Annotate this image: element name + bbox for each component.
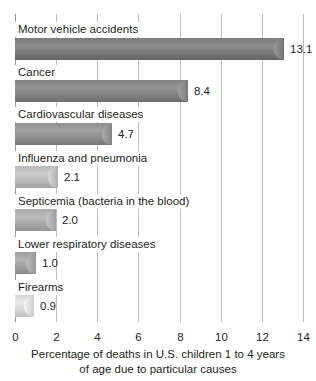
gridline <box>138 14 139 322</box>
value-label: 2.0 <box>62 209 78 231</box>
category-label: Firearms <box>15 280 65 295</box>
bar <box>15 252 36 274</box>
x-tick-label: 2 <box>45 331 69 343</box>
bar-end-cap <box>24 295 34 317</box>
value-label: 8.4 <box>194 80 210 102</box>
value-label: 13.1 <box>290 38 312 60</box>
value-label: 4.7 <box>118 123 134 145</box>
bar <box>15 295 34 317</box>
value-label: 0.9 <box>40 295 56 317</box>
bar <box>15 123 112 145</box>
gridline <box>303 14 304 322</box>
category-label: Lower respiratory diseases <box>15 237 157 252</box>
bar-end-cap <box>178 80 188 102</box>
bar <box>15 38 284 60</box>
x-tick-label: 10 <box>210 331 234 343</box>
gridline <box>262 14 263 322</box>
x-tick-label: 8 <box>169 331 193 343</box>
horizontal-bar-chart: 02468101214Motor vehicle accidents13.1Ca… <box>0 0 316 381</box>
category-label: Cancer <box>15 65 57 80</box>
bar <box>15 209 56 231</box>
bar-end-cap <box>46 209 56 231</box>
gridline <box>97 14 98 322</box>
x-axis-title-line: Percentage of deaths in U.S. children 1 … <box>0 347 316 362</box>
category-label: Septicemia (bacteria in the blood) <box>15 194 191 209</box>
value-label: 2.1 <box>64 166 80 188</box>
x-tick-label: 14 <box>292 331 316 343</box>
x-tick-label: 0 <box>4 331 28 343</box>
bar-end-cap <box>274 38 284 60</box>
x-axis-title: Percentage of deaths in U.S. children 1 … <box>0 347 316 377</box>
x-tick-label: 4 <box>86 331 110 343</box>
bar-end-cap <box>102 123 112 145</box>
bar-end-cap <box>48 166 58 188</box>
category-label: Influenza and pneumonia <box>15 151 149 166</box>
gridline <box>180 14 181 322</box>
x-tick-label: 6 <box>127 331 151 343</box>
value-label: 1.0 <box>42 252 58 274</box>
category-label: Cardiovascular diseases <box>15 107 145 122</box>
bar <box>15 166 58 188</box>
bar-end-cap <box>26 252 36 274</box>
bar <box>15 80 188 102</box>
x-axis-title-line: of age due to particular causes <box>0 362 316 377</box>
gridline <box>221 14 222 322</box>
category-label: Motor vehicle accidents <box>15 22 140 37</box>
x-tick-label: 12 <box>251 331 275 343</box>
